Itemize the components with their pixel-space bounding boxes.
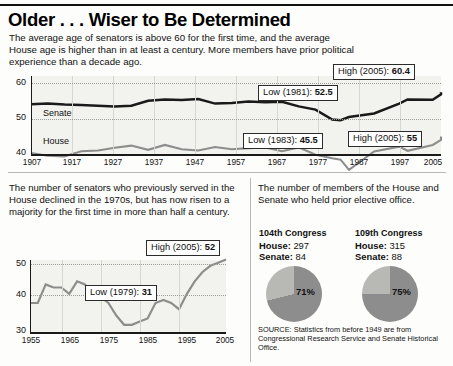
congress-104-house: House: 297 bbox=[259, 240, 327, 252]
congress-109-house: House: 315 bbox=[355, 240, 423, 252]
x-tick-1927: 1927 bbox=[96, 157, 130, 167]
pie-109-label: 75% bbox=[392, 286, 411, 297]
pie-104-label: 71% bbox=[296, 286, 315, 297]
chart2-x-tick-1965: 1965 bbox=[53, 335, 87, 345]
callout-house-low: Low (1983): 45.5 bbox=[243, 133, 323, 149]
y-axis-line bbox=[31, 76, 32, 154]
chart2-x-tick-1985: 1985 bbox=[131, 335, 165, 345]
x-tick-2005: 2005 bbox=[416, 157, 450, 167]
chart2-x-tick-1995: 1995 bbox=[170, 335, 204, 345]
chart2-y-tick-50: 50 bbox=[6, 258, 26, 268]
section-divider-horizontal bbox=[8, 172, 446, 173]
x-tick-1987: 1987 bbox=[342, 157, 376, 167]
chart2-y-tick-40: 40 bbox=[6, 289, 26, 299]
x-tick-1977: 1977 bbox=[301, 157, 335, 167]
prior-elective-office-blurb: The number of members of the House and S… bbox=[258, 182, 448, 206]
chart2-y-tick-30: 30 bbox=[6, 325, 26, 335]
age-line-chart: Senate House 60 50 40 1907 1917 1927 193… bbox=[8, 76, 446, 168]
infographic: Older . . . Wiser to Be Determined The a… bbox=[0, 0, 453, 366]
section-divider-vertical bbox=[250, 178, 251, 362]
callout-senate-high: High (2005): 60.4 bbox=[333, 64, 415, 80]
subtitle: The average age of senators is above 60 … bbox=[9, 32, 359, 69]
congress-109-stats: 109th Congress House: 315 Senate: 88 bbox=[355, 228, 423, 263]
source-note: SOURCE: Statistics from before 1949 are … bbox=[258, 326, 448, 352]
callout-senate-low: Low (1981): 52.5 bbox=[258, 85, 338, 101]
page-title: Older . . . Wiser to Be Determined bbox=[8, 10, 448, 30]
chart2-x-tick-1955: 1955 bbox=[14, 335, 48, 345]
x-tick-1917: 1917 bbox=[55, 157, 89, 167]
x-tick-1957: 1957 bbox=[219, 157, 253, 167]
congress-104-stats: 104th Congress House: 297 Senate: 84 bbox=[259, 228, 327, 263]
chart2-x-axis bbox=[30, 332, 226, 334]
congress-104-senate: Senate: 84 bbox=[259, 251, 327, 263]
chart2-x-tick-1975: 1975 bbox=[92, 335, 126, 345]
callout-prior-house-high: High (2005): 52 bbox=[146, 240, 220, 256]
senate-series-label: Senate bbox=[43, 108, 72, 118]
chart2-y-axis bbox=[30, 260, 31, 332]
top-rule bbox=[0, 4, 453, 6]
congress-109-senate: Senate: 88 bbox=[355, 251, 423, 263]
x-tick-1937: 1937 bbox=[137, 157, 171, 167]
y-tick-60: 60 bbox=[6, 77, 26, 87]
chart2-x-tick-2005: 2005 bbox=[208, 335, 242, 345]
congress-104-title: 104th Congress bbox=[259, 228, 327, 240]
x-tick-1997: 1997 bbox=[383, 157, 417, 167]
house-series-label: House bbox=[43, 136, 69, 146]
y-tick-50: 50 bbox=[6, 112, 26, 122]
y-tick-40: 40 bbox=[6, 147, 26, 157]
x-tick-1967: 1967 bbox=[260, 157, 294, 167]
x-tick-1947: 1947 bbox=[178, 157, 212, 167]
x-axis-line bbox=[31, 154, 441, 156]
senate-house-service-blurb: The number of senators who previously se… bbox=[9, 182, 247, 218]
callout-prior-house-low: Low (1979): 31 bbox=[85, 285, 157, 301]
congress-109-title: 109th Congress bbox=[355, 228, 423, 240]
x-tick-1907: 1907 bbox=[15, 157, 49, 167]
callout-house-high: High (2005): 55 bbox=[348, 131, 422, 147]
